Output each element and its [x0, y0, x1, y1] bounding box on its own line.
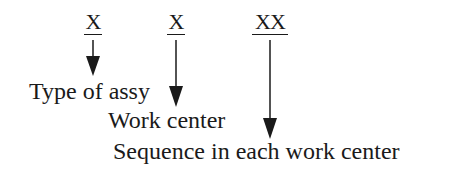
label-type-of-assy: Type of assy: [29, 79, 150, 103]
arrow-work-center-icon: [169, 40, 183, 107]
code-structure-diagram: X X XX Type of assy Work center Sequence…: [0, 0, 449, 170]
arrow-type-of-assy-icon: [86, 40, 100, 76]
arrow-sequence-icon: [263, 40, 277, 139]
label-sequence-in-each-work-center: Sequence in each work center: [113, 139, 400, 163]
label-work-center: Work center: [108, 108, 225, 132]
